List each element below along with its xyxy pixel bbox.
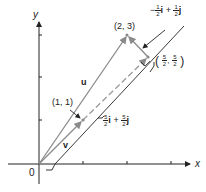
point-2-3-label: (2, 3)	[114, 22, 135, 31]
proj-vector-label: 52i + 52j	[103, 114, 129, 127]
paren-open: (	[155, 54, 159, 68]
projection-dashed	[83, 59, 146, 120]
vector-v-label: v	[63, 141, 68, 150]
point-2-3	[125, 33, 128, 36]
unit-i: i	[161, 5, 164, 15]
unit-j: j	[127, 115, 130, 125]
denominator: 2	[172, 61, 177, 67]
unit-j: j	[179, 5, 182, 15]
x-axis	[8, 161, 190, 164]
point-5half-label: ( 52, 52 )	[155, 54, 184, 67]
vector-perpendicular	[129, 37, 148, 57]
diagram-canvas	[0, 0, 206, 192]
unit-i: i	[108, 115, 111, 125]
x-axis-label: x	[195, 159, 200, 169]
numerator: 5	[172, 54, 177, 61]
point-1-1-label: (1, 1)	[52, 98, 73, 107]
origin-label: 0	[29, 168, 35, 178]
vector-u-label: u	[81, 78, 87, 87]
point-5half-5half	[146, 55, 149, 58]
fraction: 52	[172, 54, 177, 67]
point-1-1	[81, 118, 84, 121]
perp-dimension-line	[143, 30, 165, 48]
plus-sign: +	[113, 115, 118, 125]
paren-close: )	[180, 54, 184, 68]
perp-vector-label: −12i + 12j	[150, 4, 181, 17]
comma: ,	[167, 56, 169, 65]
y-axis-label: y	[33, 10, 38, 20]
plus-sign: +	[166, 5, 171, 15]
